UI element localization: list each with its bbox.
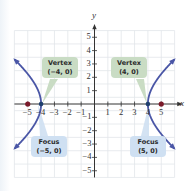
y-tick-label: −1	[83, 112, 92, 121]
x-tick-label: −5	[23, 108, 32, 117]
y-tick-label: 4	[87, 46, 91, 55]
focus-right-title: Focus	[133, 138, 163, 147]
x-tick-label: −4	[36, 108, 45, 117]
vertex-left-callout: Vertex (−4, 0)	[42, 57, 78, 78]
x-axis-label: x	[180, 98, 184, 108]
x-tick-label: −2	[63, 108, 72, 117]
y-tick-label: −2	[83, 126, 92, 135]
focus-right-callout: Focus (5, 0)	[130, 136, 166, 157]
vertex-right-pointer	[136, 79, 147, 104]
vertex-point	[146, 102, 151, 107]
vertex-left-title: Vertex	[45, 59, 75, 68]
focus-point	[159, 101, 164, 106]
vertex-point	[39, 102, 44, 107]
y-tick-label: 2	[87, 72, 91, 81]
x-tick-label: 1	[106, 108, 110, 117]
vertex-left-coords: (−4, 0)	[45, 68, 75, 77]
x-tick-label: 4	[146, 108, 150, 117]
vertex-right-callout: Vertex (4, 0)	[111, 57, 147, 78]
y-tick-label: −3	[83, 139, 92, 148]
vertex-right-coords: (4, 0)	[114, 68, 144, 77]
x-tick-label: 5	[159, 108, 163, 117]
hyperbola-plot	[0, 0, 195, 191]
y-tick-label: 1	[87, 86, 91, 95]
y-tick-label: −4	[83, 152, 92, 161]
focus-right-coords: (5, 0)	[133, 147, 163, 156]
focus-point	[25, 101, 30, 106]
y-tick-label: −5	[83, 166, 92, 175]
focus-left-callout: Focus (−5, 0)	[31, 136, 67, 157]
x-tick-label: 3	[132, 108, 136, 117]
focus-left-coords: (−5, 0)	[34, 147, 64, 156]
vertex-right-title: Vertex	[114, 59, 144, 68]
x-tick-label: 2	[119, 108, 123, 117]
y-tick-label: 3	[87, 59, 91, 68]
focus-left-title: Focus	[34, 138, 64, 147]
y-tick-label: 5	[87, 32, 91, 41]
chart-stage: y x −5−4−3−2−112345 54321−1−2−3−4−5 Vert…	[0, 0, 195, 191]
x-tick-label: −3	[49, 108, 58, 117]
y-axis-label: y	[92, 10, 96, 20]
vertex-left-pointer	[42, 79, 58, 104]
